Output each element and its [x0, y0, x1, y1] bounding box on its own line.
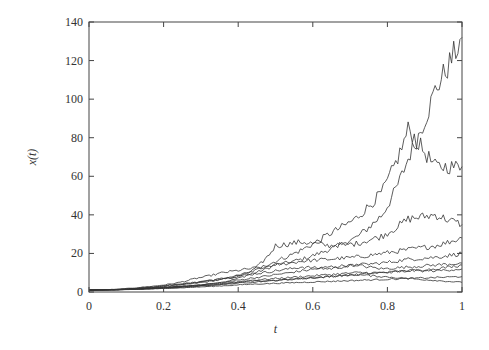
y-axis-ticks: 020406080100120140: [65, 15, 462, 299]
y-tick-label: 80: [71, 131, 83, 145]
x-tick-label: 0: [86, 299, 92, 313]
plot-frame: [89, 22, 462, 292]
y-tick-label: 60: [71, 169, 83, 183]
y-tick-label: 140: [65, 15, 83, 29]
x-tick-label: 0.4: [231, 299, 246, 313]
x-axis-ticks: 00.20.40.60.81: [86, 22, 465, 313]
x-tick-label: 0.8: [380, 299, 395, 313]
x-tick-label: 1: [459, 299, 465, 313]
y-tick-label: 40: [71, 208, 83, 222]
y-tick-label: 0: [77, 285, 83, 299]
x-tick-label: 0.6: [305, 299, 320, 313]
sample-path-6: [89, 263, 462, 290]
y-tick-label: 100: [65, 92, 83, 106]
y-tick-label: 20: [71, 246, 83, 260]
sample-path-1: [89, 37, 462, 290]
x-tick-label: 0.2: [156, 299, 171, 313]
sample-path-4: [89, 237, 462, 290]
sample-paths: [89, 37, 462, 290]
x-axis-label: t: [274, 322, 278, 336]
chart: 00.20.40.60.81 020406080100120140 t x(t): [0, 0, 489, 350]
y-tick-label: 120: [65, 54, 83, 68]
y-axis-label: x(t): [25, 149, 39, 167]
